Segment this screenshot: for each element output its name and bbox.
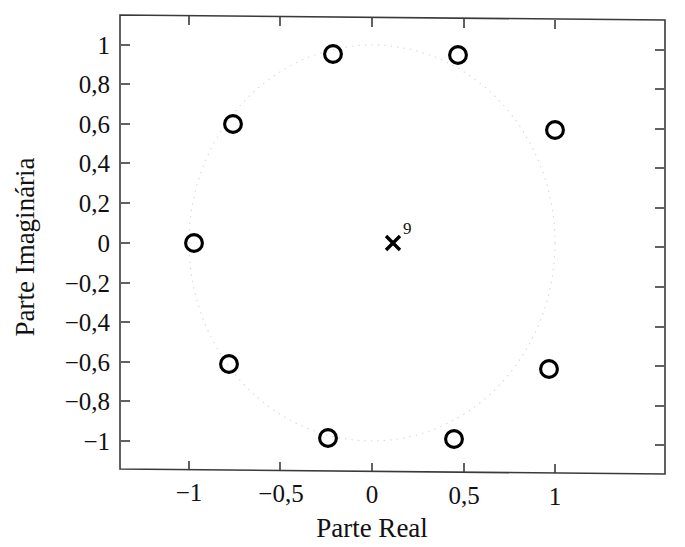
zeros-series (186, 46, 564, 448)
unit-circle-reference (189, 45, 555, 441)
zero-marker (446, 431, 463, 448)
zero-marker (186, 235, 203, 252)
x-axis-title: Parte Real (316, 513, 428, 543)
y-tick-label: −0,6 (65, 349, 110, 376)
plot-canvas: 1 0,8 0,6 0,4 0,2 0 −0,2 −0,4 −0,6 −0,8 … (0, 0, 685, 547)
y-tick-label: 0,2 (79, 190, 110, 217)
y-tick-label: −0,4 (65, 309, 111, 336)
y-tick-label: 0,8 (79, 71, 110, 98)
zero-marker (225, 116, 242, 133)
x-tick-label: 0 (366, 481, 379, 508)
zero-marker (450, 47, 467, 64)
y-tick-label: −0,2 (65, 270, 110, 297)
zero-marker (320, 430, 337, 447)
x-axis-ticks (189, 16, 555, 473)
x-tick-label: 0,5 (448, 482, 479, 509)
x-tick-label: −1 (176, 479, 203, 506)
y-tick-label: −1 (83, 428, 110, 455)
y-tick-label: 1 (98, 32, 111, 59)
x-tick-label: −0,5 (258, 480, 303, 507)
y-axis-tick-labels: 1 0,8 0,6 0,4 0,2 0 −0,2 −0,4 −0,6 −0,8 … (65, 32, 111, 455)
pole-zero-plot-figure: 1 0,8 0,6 0,4 0,2 0 −0,2 −0,4 −0,6 −0,8 … (0, 0, 685, 547)
zero-marker (541, 361, 558, 378)
zero-marker (547, 122, 564, 139)
poles-series: 9 (386, 219, 412, 250)
y-axis-title: Parte Imaginária (10, 157, 40, 336)
zero-marker (221, 356, 238, 373)
x-axis-tick-labels: −1 −0,5 0 0,5 1 (176, 479, 562, 510)
zero-marker (325, 46, 342, 63)
pole-multiplicity-label: 9 (403, 219, 412, 238)
y-tick-label: 0,4 (79, 150, 111, 177)
y-tick-label: −0,8 (65, 388, 110, 415)
y-tick-label: 0,6 (79, 111, 110, 138)
x-tick-label: 1 (549, 483, 562, 510)
y-tick-label: 0 (98, 230, 111, 257)
pole-marker (386, 236, 400, 250)
